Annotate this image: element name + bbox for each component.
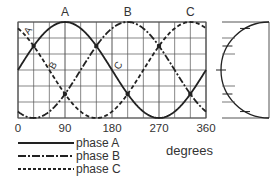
solid-line-icon	[18, 140, 74, 146]
legend-label: phase B	[76, 149, 120, 163]
peak-label-a: A	[61, 5, 69, 19]
x-tick-label: 90	[59, 122, 72, 134]
x-tick-label: 180	[102, 122, 121, 134]
peak-label-b: B	[124, 5, 132, 19]
x-tick-label: 270	[149, 122, 168, 134]
inline-label-c: C	[111, 59, 124, 71]
x-axis-ticks: 090180270360	[15, 122, 216, 134]
legend-item-phase-c: phase C	[18, 162, 121, 175]
x-tick-label: 360	[196, 122, 215, 134]
peak-label-c: C	[186, 5, 195, 19]
dash-dot-line-icon	[18, 153, 74, 159]
x-axis-title: degrees	[166, 143, 213, 158]
dashed-line-icon	[18, 166, 74, 172]
legend-item-phase-b: phase B	[18, 149, 121, 162]
inline-label-b: B	[46, 59, 59, 71]
legend: phase A phase B phase C	[18, 136, 121, 175]
legend-label: phase C	[76, 162, 121, 176]
x-tick-label: 0	[15, 122, 21, 134]
legend-item-phase-a: phase A	[18, 136, 121, 149]
legend-label: phase A	[76, 136, 119, 150]
phasor-panel	[216, 22, 269, 118]
